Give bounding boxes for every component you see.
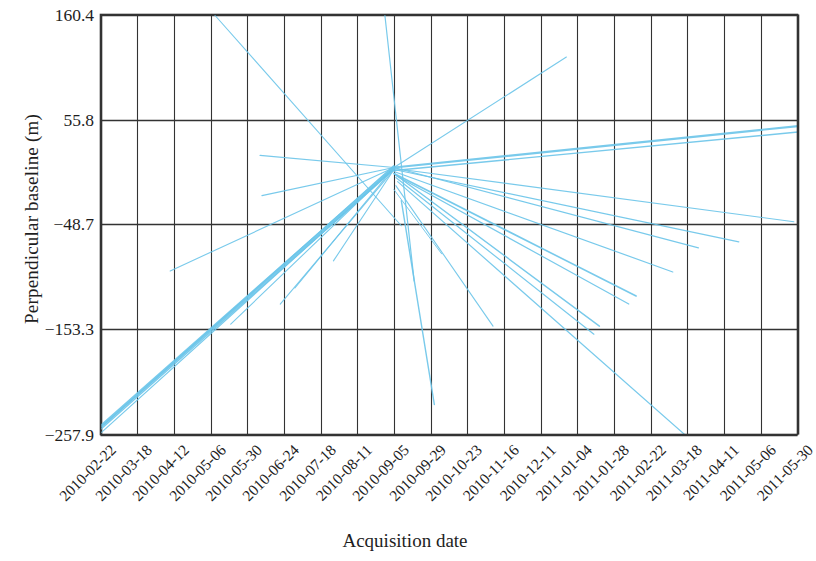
baseline-edge	[101, 172, 390, 433]
baseline-edge	[394, 131, 805, 170]
y-tick-label: −257.9	[45, 424, 94, 445]
baseline-edge	[396, 178, 594, 335]
baseline-edge	[398, 182, 690, 439]
y-tick-label: 160.4	[55, 4, 94, 25]
baseline-edge	[231, 168, 394, 325]
baseline-edge	[394, 57, 566, 167]
x-axis-label: Acquisition date	[0, 530, 810, 552]
gridlines	[101, 15, 799, 436]
baseline-edge	[280, 170, 394, 305]
baseline-edge	[401, 201, 434, 405]
baseline-edges	[101, 15, 805, 439]
baseline-edge	[394, 174, 599, 327]
y-tick-label: −48.7	[54, 214, 95, 235]
y-tick-label: 55.8	[63, 109, 94, 130]
y-tick-label: −153.3	[45, 319, 94, 340]
baseline-edge	[394, 125, 805, 167]
baseline-edge	[394, 169, 794, 222]
baseline-edge	[104, 166, 394, 425]
baseline-edge	[385, 15, 414, 281]
baseline-edge	[260, 155, 394, 167]
y-axis-tick-labels: 160.455.8−48.7−153.3−257.9	[0, 0, 94, 561]
